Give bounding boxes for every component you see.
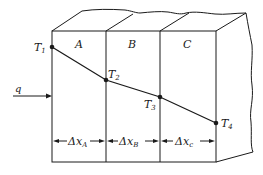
label-t3: T3	[144, 98, 156, 112]
dim-c-arrowhead-right	[209, 139, 215, 143]
thickness-label-c: Δxc	[174, 135, 193, 149]
thickness-label-b: ΔxB	[118, 135, 138, 149]
heat-flux-arrowhead	[46, 94, 52, 99]
heat-flux-label: q	[15, 83, 21, 94]
label-t2: T2	[108, 68, 120, 82]
node-t3	[158, 95, 163, 100]
bottom-edge-right	[216, 152, 253, 162]
layer-label-c: C	[183, 38, 192, 51]
dim-b-arrowhead-right	[153, 139, 159, 143]
composite-wall-diagram: A B C q T1 T2 T3 T4 ΔxA ΔxB Δxc	[0, 0, 263, 175]
break-line-right	[246, 13, 253, 152]
top-edge-ab	[106, 14, 133, 31]
temperature-profile	[52, 47, 216, 123]
node-t4	[214, 121, 219, 126]
top-edge-bc	[160, 13, 189, 31]
thickness-label-a: ΔxA	[67, 135, 87, 149]
top-edge-left	[52, 11, 82, 31]
label-t1: T1	[34, 41, 46, 55]
label-t4: T4	[221, 117, 233, 131]
layer-label-a: A	[74, 38, 83, 51]
break-line-top	[82, 9, 246, 14]
layer-label-b: B	[127, 38, 136, 51]
node-t1	[50, 45, 55, 50]
top-edge-right	[216, 13, 246, 31]
dim-b-arrowhead-left	[107, 139, 113, 143]
dim-c-arrowhead-left	[161, 139, 167, 143]
dim-a-arrowhead-right	[99, 139, 105, 143]
dim-a-arrowhead-left	[53, 139, 59, 143]
